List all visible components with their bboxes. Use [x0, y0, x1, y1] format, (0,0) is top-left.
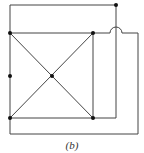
edges [10, 5, 138, 134]
node-center [50, 74, 54, 78]
figure-caption: (b) [0, 139, 144, 151]
edge-right-loop [93, 5, 116, 118]
circuit-graph-diagram [0, 0, 144, 153]
node-left-middle [8, 74, 12, 78]
node-square-bottom-left [8, 116, 12, 120]
node-square-top-left [8, 31, 12, 35]
node-square-top-right [91, 31, 95, 35]
node-square-bottom-right [91, 116, 95, 120]
node-top-right-outer [114, 3, 118, 7]
